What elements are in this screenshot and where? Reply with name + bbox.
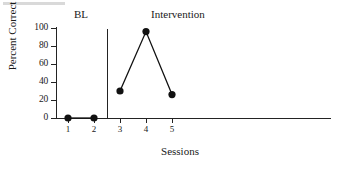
plot-area: 100 80 60 40 20 0 1 2 3 4 5 BL Intervent… (0, 0, 338, 169)
data-point-session-5 (168, 91, 175, 98)
series-line-intervention (120, 32, 172, 95)
data-point-session-2 (90, 114, 97, 121)
chart-figure: 100 80 60 40 20 0 1 2 3 4 5 BL Intervent… (0, 0, 338, 169)
data-series-layer (0, 0, 338, 169)
data-point-session-3 (116, 87, 123, 94)
data-point-session-4 (142, 28, 149, 35)
series-group (64, 28, 175, 122)
data-point-session-1 (64, 114, 71, 121)
